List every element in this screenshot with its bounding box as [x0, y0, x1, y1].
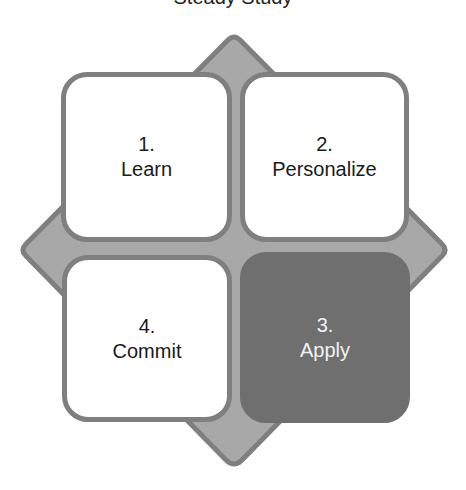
step-personalize-box: 2. Personalize — [240, 72, 409, 242]
step-label: Personalize — [272, 157, 377, 182]
step-label: Learn — [121, 157, 172, 182]
step-apply-box: 3. Apply — [240, 252, 410, 423]
step-commit-box: 4. Commit — [62, 255, 232, 422]
step-number: 1. — [138, 132, 155, 157]
step-number: 2. — [316, 132, 333, 157]
step-number: 4. — [139, 314, 156, 339]
step-number: 3. — [317, 313, 334, 338]
step-learn-box: 1. Learn — [61, 72, 232, 242]
step-label: Commit — [113, 339, 182, 364]
step-label: Apply — [300, 338, 350, 363]
